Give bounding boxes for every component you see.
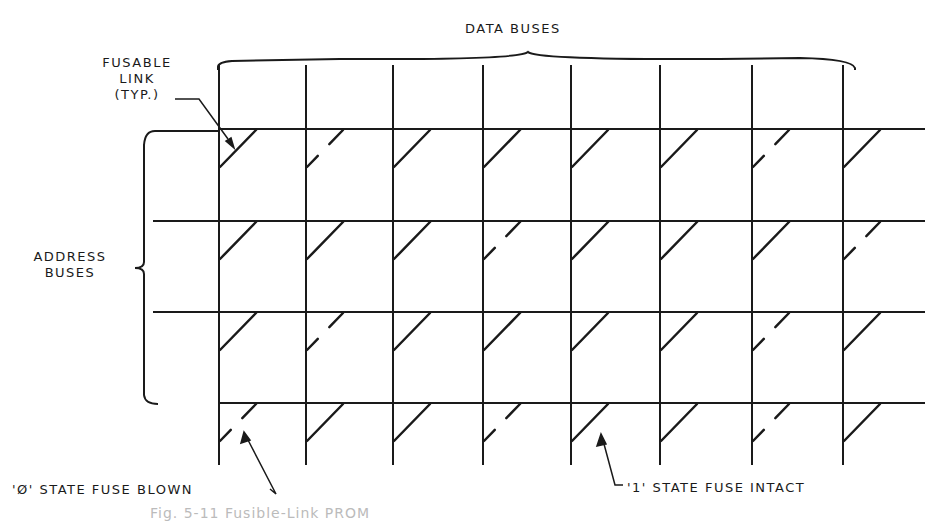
fuse-intact [572,404,608,441]
fuse-blown-lower [307,339,318,350]
fuse-blown-upper [775,130,789,144]
address-buses-line-1: ADDRESS [22,249,118,265]
fuse-blown-lower [484,430,495,441]
zero-state-label: 'Ø' STATE FUSE BLOWN [12,482,193,498]
fusable-link-arrowhead [226,138,234,148]
fuse-blown-lower [307,156,318,167]
data-buses-brace [218,52,855,70]
address-buses-label: ADDRESS BUSES [22,249,118,281]
fuse-intact [661,130,697,167]
fuse-intact [572,313,608,350]
figure-caption: Fig. 5-11 Fusible-Link PROM [150,505,370,521]
fuse-blown-lower [753,156,764,167]
fuse-blown-upper [242,404,256,418]
fuse-blown-lower [753,339,764,350]
fuse-intact [661,404,697,441]
fuse-blown-upper [775,404,789,418]
fuse-intact [394,222,430,259]
fuse-intact [307,222,343,259]
fuse-blown-lower [484,248,495,259]
fuse-intact [394,130,430,167]
fuse-blown-lower [753,430,764,441]
address-buses-brace [135,131,218,404]
fuse-blown-upper [329,313,343,327]
fuse-blown-lower [220,430,231,441]
fuse-blown-lower [844,248,855,259]
fuse-blown-upper [866,222,880,236]
fuse-blown-upper [506,404,520,418]
fuse-blown-upper [775,313,789,327]
fuse-intact [661,313,697,350]
fuse-intact [307,404,343,441]
fuse-intact [484,130,520,167]
fuse-intact [844,130,880,167]
fuse-intact [572,130,608,167]
fuse-intact [844,404,880,441]
zero-state-leader [248,440,276,494]
fuses [220,130,880,441]
fuse-intact [844,313,880,350]
one-state-label: '1' STATE FUSE INTACT [627,480,805,496]
address-buses-line-2: BUSES [22,265,118,281]
fuse-intact [484,313,520,350]
bus-lines [153,65,925,465]
fusable-link-leader [175,99,228,139]
one-state-arrowhead [597,434,606,446]
fuse-intact [220,313,256,350]
one-state-leader [604,444,623,485]
fuse-intact [220,222,256,259]
fusable-link-line-1: FUSABLE [82,55,192,71]
fusable-link-label: FUSABLE LINK (TYP.) [82,55,192,103]
fuse-intact [572,222,608,259]
fuse-intact [394,313,430,350]
fuse-intact [753,222,789,259]
fuse-blown-upper [329,130,343,144]
fusable-link-line-2: LINK [82,71,192,87]
data-buses-label: DATA BUSES [465,21,561,37]
fusable-link-line-3: (TYP.) [82,87,192,103]
fuse-intact [661,222,697,259]
fuse-intact [394,404,430,441]
fuse-blown-upper [506,222,520,236]
